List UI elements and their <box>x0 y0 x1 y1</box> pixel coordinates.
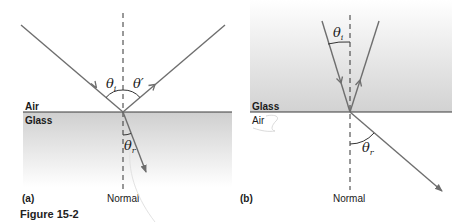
medium-label-air-a: Air <box>25 101 39 112</box>
medium-label-glass-a: Glass <box>25 115 53 126</box>
glass-region-b <box>250 0 452 112</box>
panel-label-a: (a) <box>22 193 34 204</box>
medium-label-air-b: Air <box>252 115 265 126</box>
figure-caption: Figure 15-2 <box>20 208 79 220</box>
panel-a: θi θ′ θr Air Glass (a) Normal <box>21 13 232 222</box>
normal-label-a: Normal <box>107 193 139 204</box>
reflected-ray-a <box>123 25 225 112</box>
refraction-diagram: θi θ′ θr Air Glass (a) Normal θi θr Glas… <box>0 0 464 222</box>
theta-r-label-b: θr <box>362 140 375 157</box>
theta-i-label-a: θi <box>106 76 117 93</box>
panel-b: θi θr Glass Air (b) Normal <box>240 0 452 204</box>
panel-label-b: (b) <box>240 193 253 204</box>
normal-label-b: Normal <box>333 193 365 204</box>
reflected-angle-arc-a <box>123 90 140 98</box>
medium-label-glass-b: Glass <box>252 101 280 112</box>
incident-ray-a <box>21 25 123 112</box>
theta-prime-label-a: θ′ <box>133 76 144 91</box>
